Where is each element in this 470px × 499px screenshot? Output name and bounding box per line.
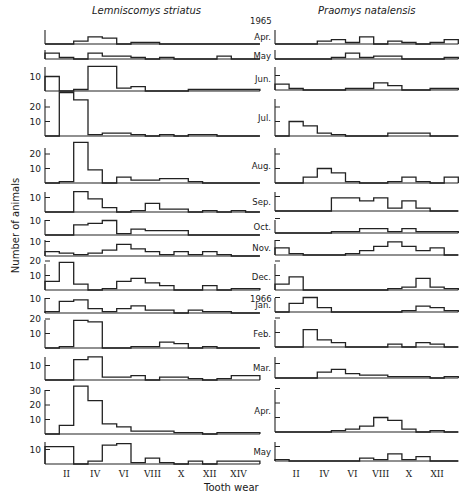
histogram-outline bbox=[275, 242, 458, 255]
month-label: Aug. bbox=[252, 161, 271, 171]
histogram-outline bbox=[275, 277, 458, 290]
month-label: Jul. bbox=[257, 113, 271, 123]
panel-apr: Apr. bbox=[254, 389, 458, 433]
y-tick-label: 10 bbox=[30, 216, 42, 226]
histogram-outline bbox=[275, 369, 458, 378]
x-tick-label: VI bbox=[347, 469, 358, 479]
panel-jun: Jun. bbox=[254, 67, 458, 90]
histogram-outline bbox=[45, 244, 260, 256]
panel-apr bbox=[45, 30, 260, 44]
y-tick-label: 30 bbox=[30, 386, 42, 396]
y-tick-label: 10 bbox=[30, 117, 42, 127]
y-tick-label: 20 bbox=[30, 102, 42, 112]
right-species-panels: Apr.MayJun.Jul.Aug.Sep.Oct.Nov.Dec.Jan.F… bbox=[252, 30, 459, 461]
histogram-outline bbox=[275, 418, 458, 433]
histogram-outline bbox=[45, 262, 260, 290]
panel-sep: 10 bbox=[30, 192, 260, 212]
month-label: May bbox=[253, 447, 271, 457]
panel-nov: 10 bbox=[30, 237, 260, 257]
panel-apr: Apr. bbox=[254, 30, 458, 44]
panel-may: May bbox=[253, 50, 458, 61]
histogram-outline bbox=[45, 93, 260, 137]
month-label: Feb. bbox=[253, 329, 271, 339]
histogram-outline bbox=[45, 142, 260, 183]
histogram-outline bbox=[45, 386, 260, 434]
histogram-outline bbox=[275, 454, 458, 461]
left-species-panels: 101020102010101010201010201010203010 bbox=[30, 30, 260, 464]
histogram-outline bbox=[45, 66, 260, 91]
histogram-outline bbox=[275, 169, 458, 184]
panel-may: May bbox=[253, 442, 458, 461]
histogram-outline bbox=[275, 330, 458, 347]
panel-dec: Dec. bbox=[252, 261, 458, 290]
histogram-outline bbox=[275, 83, 458, 90]
histogram-outline bbox=[275, 298, 458, 313]
histogram-outline bbox=[45, 444, 260, 464]
x-tick-label: II bbox=[63, 469, 71, 479]
histogram-outline bbox=[45, 37, 260, 44]
histogram-outline bbox=[45, 357, 260, 380]
month-label: May bbox=[253, 51, 271, 61]
y-tick-label: 10 bbox=[30, 415, 42, 425]
histogram-outline bbox=[275, 229, 458, 233]
panel-mar: Mar. bbox=[253, 357, 458, 378]
y-tick-label: 20 bbox=[30, 314, 42, 324]
x-tick-label: II bbox=[293, 469, 301, 479]
y-tick-label: 20 bbox=[30, 256, 42, 266]
y-tick-label: 10 bbox=[30, 445, 42, 455]
histogram-outline bbox=[275, 37, 458, 44]
panel-oct: 10 bbox=[30, 216, 260, 236]
x-tick-label: VIII bbox=[371, 469, 390, 479]
month-label: Apr. bbox=[254, 406, 271, 416]
panel-dec: 1020 bbox=[30, 256, 260, 290]
y-tick-label: 10 bbox=[30, 361, 42, 371]
x-tick-label: IV bbox=[90, 469, 101, 479]
y-tick-label: 20 bbox=[30, 149, 42, 159]
panel-jul: Jul. bbox=[257, 99, 458, 136]
x-tick-label: X bbox=[178, 469, 185, 479]
month-label: Apr. bbox=[254, 32, 271, 42]
panel-jun: 10 bbox=[30, 66, 260, 91]
histogram-outline bbox=[45, 221, 260, 236]
month-label: Nov. bbox=[252, 243, 271, 253]
panel-apr: 102030 bbox=[30, 386, 260, 435]
histogram-outline bbox=[45, 192, 260, 212]
x-tick-label: XII bbox=[203, 469, 217, 479]
y-tick-label: 10 bbox=[30, 72, 42, 82]
histogram-outline bbox=[45, 53, 260, 59]
y-tick-label: 10 bbox=[30, 329, 42, 339]
histogram-panels-chart: 101020102010101010201010201010203010IIIV… bbox=[0, 0, 470, 499]
panel-may: 10 bbox=[30, 442, 260, 464]
panel-jan: 10 bbox=[30, 294, 260, 314]
histogram-outline bbox=[45, 320, 260, 348]
panel-may bbox=[45, 50, 260, 59]
x-tick-label: X bbox=[406, 469, 413, 479]
y-tick-label: 10 bbox=[30, 237, 42, 247]
panel-nov: Nov. bbox=[252, 240, 458, 255]
panel-mar: 10 bbox=[30, 357, 260, 380]
panel-aug: Aug. bbox=[252, 148, 459, 183]
panel-aug: 1020 bbox=[30, 142, 260, 183]
month-label: Dec. bbox=[252, 272, 271, 282]
year-label: 1965 bbox=[250, 16, 272, 26]
x-tick-label: VI bbox=[118, 469, 129, 479]
panel-oct: Oct. bbox=[254, 219, 459, 234]
y-tick-label: 10 bbox=[30, 294, 42, 304]
month-label: Oct. bbox=[254, 222, 271, 232]
month-label: Jun. bbox=[254, 74, 271, 84]
panel-feb: Feb. bbox=[253, 318, 458, 347]
month-label: Mar. bbox=[253, 363, 271, 373]
histogram-outline bbox=[275, 53, 458, 59]
year-label: 1966 bbox=[250, 294, 272, 304]
y-tick-label: 10 bbox=[30, 271, 42, 281]
x-tick-label: IV bbox=[319, 469, 330, 479]
histogram-outline bbox=[275, 198, 458, 211]
y-tick-label: 10 bbox=[30, 164, 42, 174]
y-tick-label: 20 bbox=[30, 400, 42, 410]
panel-feb: 1020 bbox=[30, 314, 260, 348]
histogram-outline bbox=[45, 300, 260, 313]
panel-sep: Sep. bbox=[252, 192, 458, 211]
x-tick-label: XII bbox=[430, 469, 444, 479]
month-label: Sep. bbox=[252, 197, 271, 207]
histogram-outline bbox=[275, 122, 458, 137]
